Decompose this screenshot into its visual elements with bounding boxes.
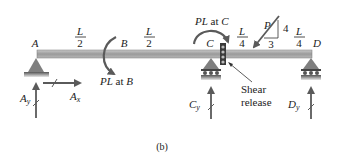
svg-text:2: 2 [77,37,83,49]
shear-release-label-line1: Shear [241,83,266,95]
roller-support-c [201,58,221,80]
slope-run-label: 3 [268,38,274,50]
reaction-ax-arrow-icon [43,79,80,87]
segment-bc-length: L 2 [144,25,155,49]
roller-support-d [301,58,321,80]
reaction-ay-arrow-icon [33,84,39,118]
reaction-dy-label: Dy [287,98,300,112]
svg-text:4: 4 [296,37,302,49]
beam-diagram: A B C D L 2 L 2 L 4 L 4 PL at B PL at C … [0,0,340,159]
point-label-a: A [31,37,39,49]
moment-label-c: PL at C [194,15,229,27]
point-label-d: D [312,37,321,49]
shear-release-device [220,43,226,65]
force-p-label: P [263,19,271,31]
point-label-b: B [121,37,128,49]
svg-text:L: L [145,25,152,37]
svg-text:4: 4 [239,37,245,49]
figure-label: (b) [156,141,168,153]
svg-text:2: 2 [146,37,152,49]
reaction-dy-arrow-icon [308,88,314,119]
segment-ab-length: L 2 [75,25,86,49]
reaction-cy-label: Cy [189,98,200,112]
svg-text:L: L [76,25,83,37]
segment-load-d-length: L 4 [294,25,305,49]
slope-rise-label: 4 [283,22,289,34]
shear-release-label-line2: release [241,96,272,108]
svg-text:L: L [295,25,302,37]
point-label-c: C [206,37,214,49]
moment-label-b: PL at B [99,75,133,87]
shear-release-pointer [229,63,252,82]
reaction-ax-label: Ax [69,90,81,104]
beam [37,50,312,58]
segment-c-load-length: L 4 [237,25,248,49]
reaction-ay-label: Ay [19,92,31,106]
pin-support-a [24,58,49,77]
svg-text:L: L [238,25,245,37]
reaction-cy-arrow-icon [208,88,214,119]
